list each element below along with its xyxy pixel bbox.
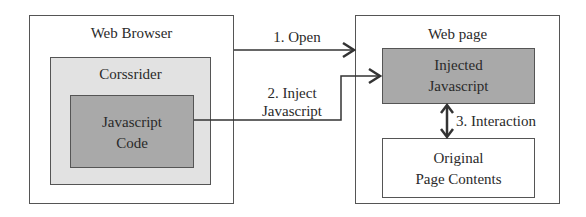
open-arrow-label: 1. Open [252, 28, 342, 47]
inject-arrow-label-line2: Javascript [250, 102, 334, 121]
interaction-double-arrow-icon [441, 105, 453, 137]
inject-arrow-label-line1: 2. Inject [252, 84, 332, 103]
interaction-arrow-label: 3. Interaction [456, 112, 556, 131]
